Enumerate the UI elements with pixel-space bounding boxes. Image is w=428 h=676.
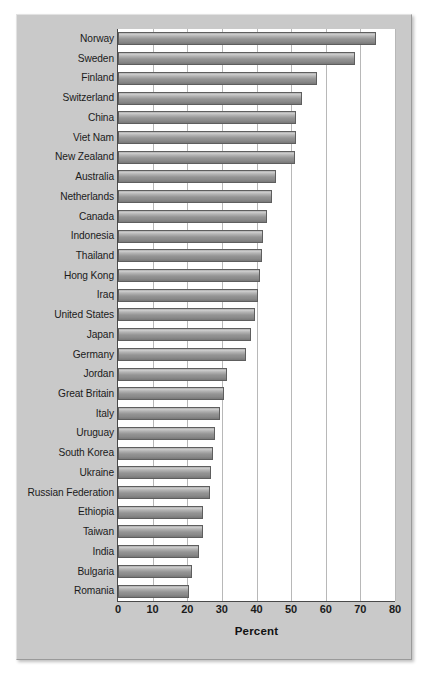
category-label: Indonesia xyxy=(71,226,114,246)
bar-row: Viet Nam xyxy=(118,128,395,148)
bar xyxy=(118,545,199,558)
bar-row: China xyxy=(118,108,395,128)
bar-row: Japan xyxy=(118,325,395,345)
bar xyxy=(118,427,215,440)
bar-row: Italy xyxy=(118,404,395,424)
bar-row: Indonesia xyxy=(118,226,395,246)
bar xyxy=(118,308,255,321)
chart-figure-panel: NorwaySwedenFinlandSwitzerlandChinaViet … xyxy=(16,14,412,660)
bar-row: New Zealand xyxy=(118,147,395,167)
x-axis-title: Percent xyxy=(118,625,395,637)
x-tick-label-40: 40 xyxy=(250,603,262,615)
bar-row: Iraq xyxy=(118,285,395,305)
bar-row: Uruguay xyxy=(118,423,395,443)
bar xyxy=(118,52,355,65)
bar xyxy=(118,92,302,105)
bar xyxy=(118,407,220,420)
category-label: Sweden xyxy=(78,49,114,69)
category-label: Bulgaria xyxy=(77,562,114,582)
bar-row: Norway xyxy=(118,29,395,49)
bar xyxy=(118,170,276,183)
bar xyxy=(118,289,258,302)
bar xyxy=(118,506,203,519)
category-label: Norway xyxy=(80,29,114,49)
x-tick-label-20: 20 xyxy=(181,603,193,615)
bar xyxy=(118,585,189,598)
category-label: Iraq xyxy=(97,285,114,305)
bar-row: India xyxy=(118,542,395,562)
category-label: Ukraine xyxy=(80,463,114,483)
bar-row: Australia xyxy=(118,167,395,187)
category-label: Switzerland xyxy=(62,88,114,108)
category-label: Australia xyxy=(75,167,114,187)
bar xyxy=(118,131,296,144)
bar xyxy=(118,72,317,85)
category-label: Taiwan xyxy=(83,522,114,542)
x-tick-label-70: 70 xyxy=(354,603,366,615)
bar-row: Finland xyxy=(118,68,395,88)
bar xyxy=(118,387,224,400)
bar xyxy=(118,151,295,164)
category-label: Hong Kong xyxy=(64,266,114,286)
bar xyxy=(118,466,211,479)
category-label: New Zealand xyxy=(55,147,114,167)
category-label: Great Britain xyxy=(58,384,114,404)
category-label: Germany xyxy=(73,345,114,365)
bar xyxy=(118,249,262,262)
category-label: Russian Federation xyxy=(27,483,114,503)
bar xyxy=(118,190,272,203)
category-label: Finland xyxy=(81,68,114,88)
plot-area: NorwaySwedenFinlandSwitzerlandChinaViet … xyxy=(117,29,395,602)
category-label: Netherlands xyxy=(60,187,114,207)
x-tick-label-50: 50 xyxy=(285,603,297,615)
bar-row: Jordan xyxy=(118,364,395,384)
bar xyxy=(118,230,263,243)
bar xyxy=(118,111,296,124)
bar xyxy=(118,368,227,381)
bar xyxy=(118,486,210,499)
category-label: Canada xyxy=(79,207,114,227)
category-label: China xyxy=(88,108,114,128)
x-tick-label-30: 30 xyxy=(216,603,228,615)
bar-row: Romania xyxy=(118,581,395,601)
bar xyxy=(118,32,376,45)
category-label: India xyxy=(92,542,114,562)
bar-row: Taiwan xyxy=(118,522,395,542)
bar xyxy=(118,348,246,361)
x-tick-label-0: 0 xyxy=(115,603,121,615)
bar-row: Thailand xyxy=(118,246,395,266)
bar xyxy=(118,447,213,460)
bar-row: Russian Federation xyxy=(118,483,395,503)
bar-row: Netherlands xyxy=(118,187,395,207)
category-label: United States xyxy=(54,305,114,325)
bar xyxy=(118,565,192,578)
bar-row: Ethiopia xyxy=(118,502,395,522)
x-tick-label-80: 80 xyxy=(389,603,401,615)
category-label: Uruguay xyxy=(76,423,114,443)
bar-row: Switzerland xyxy=(118,88,395,108)
bar-row: Ukraine xyxy=(118,463,395,483)
gridline-80 xyxy=(395,29,396,601)
bar xyxy=(118,269,260,282)
bar-row: Bulgaria xyxy=(118,562,395,582)
category-label: Italy xyxy=(96,404,114,424)
category-label: Thailand xyxy=(76,246,114,266)
category-label: Jordan xyxy=(83,364,114,384)
bar-row: Sweden xyxy=(118,49,395,69)
bar-row: Great Britain xyxy=(118,384,395,404)
category-label: Japan xyxy=(87,325,114,345)
bar xyxy=(118,210,267,223)
bar xyxy=(118,328,251,341)
bar-row: Canada xyxy=(118,207,395,227)
category-label: South Korea xyxy=(58,443,114,463)
category-label: Romania xyxy=(74,581,114,601)
bar-row: United States xyxy=(118,305,395,325)
bar-row: Hong Kong xyxy=(118,266,395,286)
bar xyxy=(118,525,203,538)
x-tick-label-60: 60 xyxy=(320,603,332,615)
category-label: Ethiopia xyxy=(78,502,114,522)
x-tick-label-10: 10 xyxy=(147,603,159,615)
bar-row: Germany xyxy=(118,345,395,365)
bar-row: South Korea xyxy=(118,443,395,463)
category-label: Viet Nam xyxy=(73,128,114,148)
